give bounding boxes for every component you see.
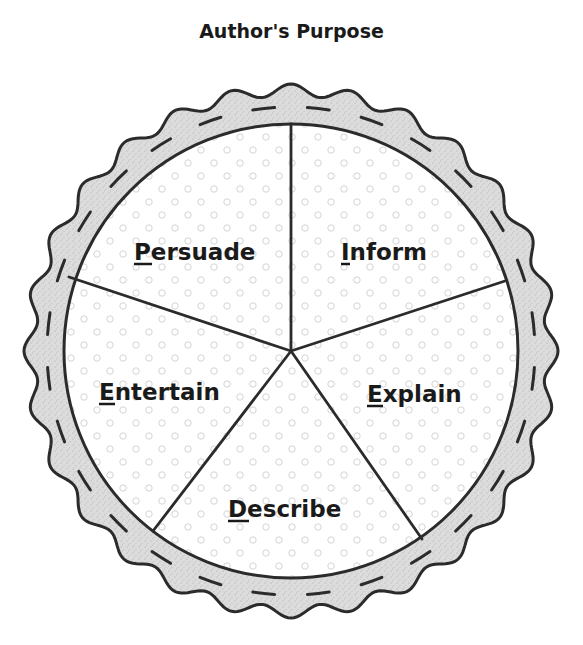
svg-text:Describe: Describe bbox=[228, 496, 341, 522]
svg-text:Explain: Explain bbox=[367, 381, 462, 407]
slice-label-persuade: Persuade bbox=[134, 239, 255, 265]
svg-text:Entertain: Entertain bbox=[99, 379, 220, 405]
slice-label-explain: Explain bbox=[367, 381, 462, 407]
svg-text:Persuade: Persuade bbox=[134, 239, 255, 265]
svg-text:Inform: Inform bbox=[341, 239, 427, 265]
slice-label-describe: Describe bbox=[228, 496, 341, 522]
author-purpose-pie: Persuade Inform Explain Describe Enterta… bbox=[0, 0, 583, 645]
slice-label-entertain: Entertain bbox=[99, 379, 220, 405]
slice-label-inform: Inform bbox=[341, 239, 427, 265]
